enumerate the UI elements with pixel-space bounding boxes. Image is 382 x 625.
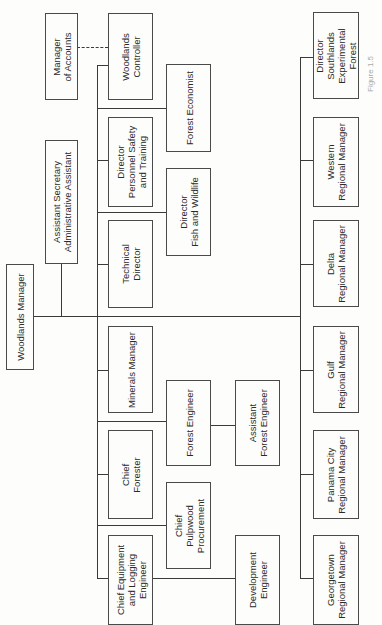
node-development-engineer: Development Engineer (235, 535, 280, 625)
assistant-connector (61, 263, 62, 316)
node-label: Director Personnel Safety and Training (114, 126, 147, 198)
link-southlands (300, 57, 313, 58)
node-label: Assistant Secretary Administrative Assis… (51, 152, 73, 252)
link-pulpwood (97, 525, 166, 526)
node-forest-economist: Forest Economist (166, 64, 211, 152)
node-delta-regional-manager: Delta Regional Manager (313, 220, 359, 307)
node-label: Chief Equipment and Logging Engineer (114, 545, 147, 615)
link-asst-forest-engineer (211, 425, 235, 426)
node-technical-director: Technical Director (108, 220, 153, 308)
node-assistant-forest-engineer: Assistant Forest Engineer (235, 380, 280, 466)
node-woodlands-manager: Woodlands Manager (6, 264, 34, 370)
link-technical (97, 264, 108, 265)
node-chief-pulpwood: Chief Pulpwood Procurement (166, 482, 211, 569)
node-woodlands-controller: Woodlands Controller (108, 13, 153, 100)
node-label: Western Regional Manager (325, 123, 347, 201)
link-minerals (97, 370, 108, 371)
node-label: Delta Regional Manager (325, 225, 347, 303)
node-label: Woodlands Controller (120, 33, 142, 80)
link-chief-equipment (97, 578, 108, 579)
node-label: Director Southlands Experimental Forest (314, 28, 358, 83)
node-label: Development Engineer (247, 552, 269, 608)
node-label: Forest Economist (183, 71, 194, 145)
node-label: Minerals Manager (125, 331, 136, 407)
link-economist (97, 108, 166, 109)
node-label: Technical Director (120, 244, 142, 284)
node-label: Assistant Forest Engineer (247, 389, 269, 457)
node-director-fish-wildlife: Director Fish and Wildlife (166, 168, 211, 256)
node-label: Forest Engineer (183, 389, 194, 457)
node-georgetown-regional-manager: Georgetown Regional Manager (313, 535, 359, 625)
node-label: Chief Pulpwood Procurement (172, 498, 205, 552)
link-personnel (97, 160, 108, 161)
link-forest-engineer (97, 421, 166, 422)
link-fish-wildlife (97, 212, 166, 213)
node-label: Director Fish and Wildlife (178, 177, 200, 247)
node-label: Panama City Regional Manager (325, 436, 347, 514)
node-minerals-manager: Minerals Manager (108, 326, 153, 413)
node-western-regional-manager: Western Regional Manager (313, 117, 359, 207)
node-assistant-secretary: Assistant Secretary Administrative Assis… (45, 140, 78, 264)
dotted-accounts-link (77, 47, 108, 48)
node-chief-equipment: Chief Equipment and Logging Engineer (108, 535, 153, 625)
figure-caption: Figure 1.5 (366, 56, 375, 92)
link-gulf (300, 370, 313, 371)
node-chief-forester: Chief Forester (108, 430, 153, 519)
node-gulf-regional-manager: Gulf Regional Manager (313, 326, 359, 413)
link-development-engineer (153, 578, 235, 579)
link-chief-forester (97, 474, 108, 475)
node-manager-of-accounts: Manager of Accounts (45, 13, 78, 100)
link-georgetown (300, 578, 313, 579)
staff-bus (97, 65, 98, 579)
link-controller (97, 65, 108, 66)
node-forest-engineer: Forest Engineer (166, 380, 211, 466)
node-label: Georgetown Regional Manager (325, 541, 347, 619)
link-western (300, 160, 313, 161)
node-director-personnel: Director Personnel Safety and Training (108, 117, 153, 207)
node-label: Gulf Regional Manager (325, 331, 347, 409)
link-delta (300, 264, 313, 265)
node-panama-city-regional-manager: Panama City Regional Manager (313, 430, 359, 519)
node-label: Manager of Accounts (51, 32, 73, 81)
node-director-southlands: Director Southlands Experimental Forest (313, 12, 359, 99)
node-label: Woodlands Manager (15, 273, 26, 361)
trunk-line (33, 316, 300, 317)
regional-bus (300, 57, 301, 579)
link-panama (300, 474, 313, 475)
node-label: Chief Forester (120, 457, 142, 492)
